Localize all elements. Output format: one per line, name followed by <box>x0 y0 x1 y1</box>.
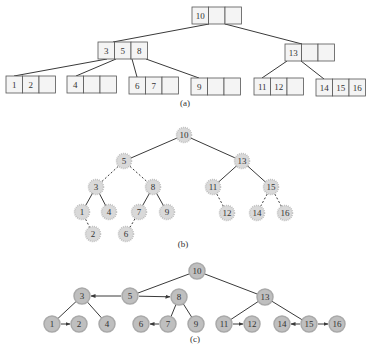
node-key: 8 <box>177 292 182 302</box>
node-key: 13 <box>238 156 248 166</box>
node-key: 16 <box>333 319 343 329</box>
node-key: 15 <box>267 182 277 192</box>
btree-cell <box>225 7 242 24</box>
btree-cell <box>208 78 225 95</box>
node-key: 4 <box>105 319 110 329</box>
tree-node: 12 <box>220 206 235 221</box>
caption-a: (a) <box>180 98 190 108</box>
tree-edge <box>225 24 302 44</box>
node-key: 9 <box>165 207 170 217</box>
tree-node: 5 <box>117 154 132 169</box>
tree-node: 2 <box>86 227 101 242</box>
btree-key: 16 <box>353 83 363 93</box>
tree-edge <box>113 24 209 42</box>
btree-key: 9 <box>197 82 202 92</box>
tree-node: 11 <box>206 180 221 195</box>
node-key: 15 <box>305 319 315 329</box>
tree-edge <box>76 59 116 76</box>
tree-edge <box>14 59 107 76</box>
tree-node: 4 <box>99 316 115 332</box>
node-key: 12 <box>223 208 232 218</box>
tree-node: 7 <box>132 205 147 220</box>
btree-cell <box>287 78 304 95</box>
tree-edge <box>262 61 287 78</box>
tree-node: 15 <box>264 180 279 195</box>
btree-key: 1 <box>12 80 17 90</box>
black-link-edge <box>124 135 184 161</box>
tree-node: 13 <box>257 289 273 305</box>
node-key: 6 <box>124 229 129 239</box>
btree-cell <box>162 77 179 94</box>
tree-node: 12 <box>244 316 260 332</box>
tree-node: 13 <box>235 154 250 169</box>
tree-node: 8 <box>146 180 161 195</box>
tree-edge <box>197 271 265 297</box>
tree-node: 4 <box>102 205 117 220</box>
node-key: 16 <box>281 208 291 218</box>
btree-node: 9 <box>191 78 241 95</box>
btree-key: 3 <box>104 46 109 56</box>
node-key: 9 <box>194 319 199 329</box>
node-key: 11 <box>220 319 229 329</box>
tree-node: 1 <box>44 316 60 332</box>
figure-canvas: 10358131246791112141516 (a) 105133811151… <box>0 0 379 350</box>
btree-key: 11 <box>258 82 267 92</box>
btree-cell <box>318 44 335 61</box>
black-link-edge <box>184 135 242 161</box>
tree-node: 15 <box>301 316 317 332</box>
node-key: 1 <box>80 207 85 217</box>
node-key: 1 <box>50 319 55 329</box>
tree-node: 10 <box>189 263 205 279</box>
btree-key: 6 <box>135 81 140 91</box>
btree-node: 1112 <box>254 78 304 95</box>
btree-node: 10 <box>192 7 242 24</box>
node-key: 3 <box>94 182 99 192</box>
node-key: 13 <box>261 292 271 302</box>
btree-node: 4 <box>67 76 117 93</box>
tree-node: 5 <box>122 288 138 304</box>
node-key: 8 <box>151 182 156 192</box>
node-key: 7 <box>166 319 171 329</box>
caption-c: (c) <box>190 334 200 344</box>
node-key: 3 <box>80 291 85 301</box>
btree-cell <box>209 7 226 24</box>
node-key: 2 <box>77 319 82 329</box>
tree-node: 7 <box>160 316 176 332</box>
tree-node: 9 <box>188 316 204 332</box>
tree-node: 3 <box>89 180 104 195</box>
btree-cell <box>39 76 56 93</box>
tree-edge <box>301 61 324 79</box>
btree-key: 14 <box>320 83 330 93</box>
btree-node: 67 <box>129 77 179 94</box>
btree-key: 5 <box>121 46 126 56</box>
tree-node: 6 <box>133 316 149 332</box>
node-key: 12 <box>248 319 257 329</box>
btree-key: 13 <box>289 48 299 58</box>
tree-edge <box>146 59 199 78</box>
btree-node: 358 <box>98 42 148 59</box>
btree-cell <box>224 78 241 95</box>
tree-node: 6 <box>119 227 134 242</box>
btree-key: 15 <box>336 83 346 93</box>
btree-key: 4 <box>73 80 78 90</box>
flattened-tree-diagram-c: 10358131246791112141516 <box>44 263 345 332</box>
btree-cell <box>100 76 117 93</box>
tree-node: 2 <box>71 316 87 332</box>
node-key: 7 <box>137 207 142 217</box>
node-key: 2 <box>91 229 96 239</box>
node-key: 5 <box>122 156 127 166</box>
node-key: 14 <box>278 319 288 329</box>
tree-node: 3 <box>74 288 90 304</box>
tree-node: 9 <box>160 205 175 220</box>
node-key: 4 <box>107 207 112 217</box>
node-key: 14 <box>253 208 263 218</box>
btree-key: 12 <box>274 82 283 92</box>
tree-diagrams: 10358131246791112141516 (a) 105133811151… <box>0 0 379 350</box>
redblack-tree-diagram-b: 10513381115147912141626 <box>75 128 293 242</box>
node-key: 11 <box>209 182 218 192</box>
btree-key: 10 <box>196 11 206 21</box>
node-key: 5 <box>128 291 133 301</box>
btree-key: 8 <box>137 46 142 56</box>
tree-node: 16 <box>329 316 345 332</box>
node-key: 10 <box>180 130 190 140</box>
